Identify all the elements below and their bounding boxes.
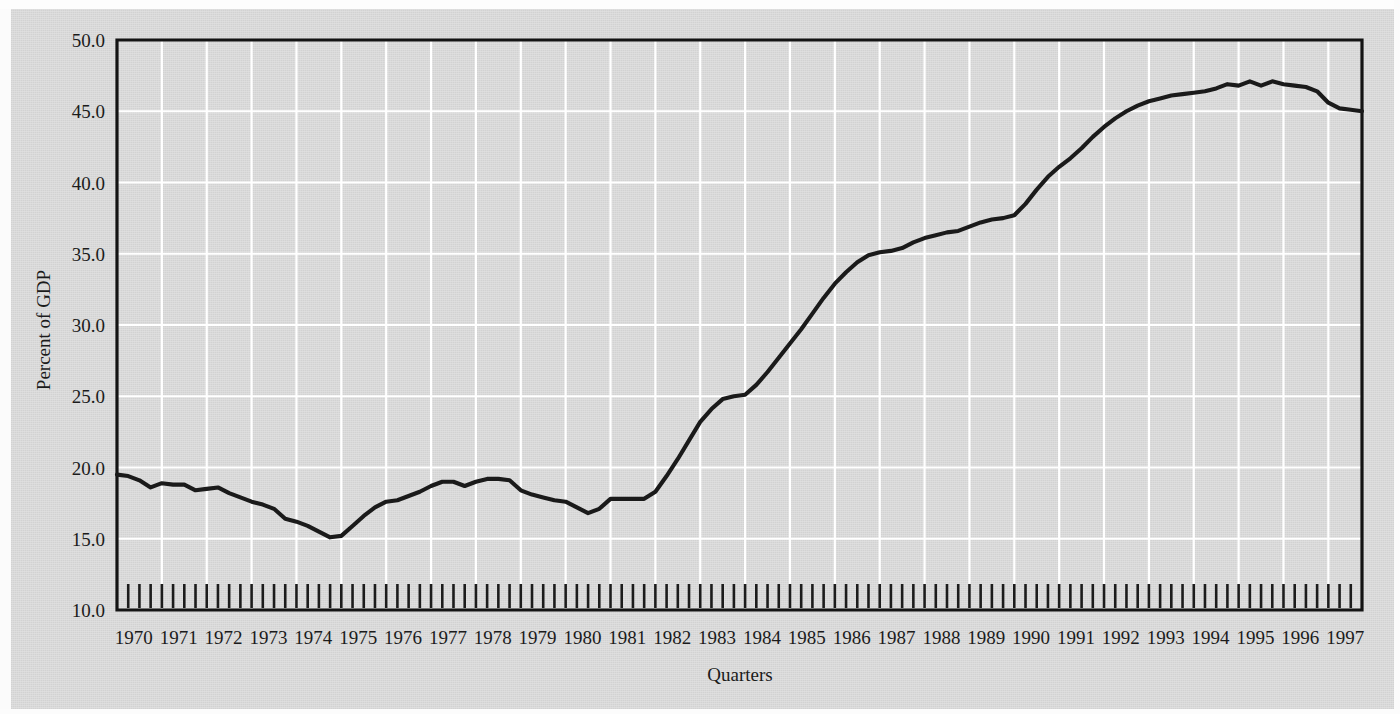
x-axis-tick-label: 1993 — [1147, 627, 1185, 648]
x-axis-tick-label: 1973 — [249, 627, 287, 648]
x-axis-tick-label: 1988 — [922, 627, 960, 648]
x-axis-tick-label: 1977 — [429, 627, 467, 648]
x-axis-tick-label: 1972 — [205, 627, 243, 648]
y-axis-tick-label: 35.0 — [72, 244, 105, 265]
chart-figure: 50.045.040.035.030.025.020.015.010.0 197… — [0, 0, 1400, 714]
x-axis-tick-label: 1989 — [967, 627, 1005, 648]
x-axis-tick-label: 1983 — [698, 627, 736, 648]
x-axis-tick-label: 1982 — [653, 627, 691, 648]
x-axis-tick-label: 1984 — [743, 627, 782, 648]
y-axis-tick-label: 45.0 — [72, 101, 105, 122]
x-axis-tick-label: 1990 — [1012, 627, 1050, 648]
y-axis-tick-label: 20.0 — [72, 458, 105, 479]
x-axis-tick-label: 1997 — [1326, 627, 1364, 648]
y-axis-tick-label: 25.0 — [72, 386, 105, 407]
x-axis-tick-label: 1996 — [1281, 627, 1319, 648]
x-axis-tick-label: 1970 — [115, 627, 153, 648]
x-axis-tick-labels: 1970197119721973197419751976197719781979… — [115, 627, 1364, 648]
x-axis-tick-label: 1971 — [160, 627, 198, 648]
y-axis-tick-label: 10.0 — [72, 600, 105, 621]
y-axis-tick-labels: 50.045.040.035.030.025.020.015.010.0 — [72, 30, 105, 621]
x-axis-tick-label: 1974 — [294, 627, 333, 648]
y-axis-tick-label: 15.0 — [72, 529, 105, 550]
y-axis-title: Percent of GDP — [33, 270, 54, 390]
x-axis-tick-label: 1980 — [563, 627, 601, 648]
x-axis-tick-label: 1991 — [1057, 627, 1095, 648]
x-axis-tick-label: 1985 — [788, 627, 826, 648]
x-axis-tick-label: 1987 — [878, 627, 916, 648]
horizontal-gridlines — [117, 111, 1362, 539]
x-axis-tick-label: 1986 — [833, 627, 871, 648]
x-axis-tick-label: 1976 — [384, 627, 422, 648]
x-axis-tick-label: 1979 — [519, 627, 557, 648]
x-axis-tick-label: 1981 — [608, 627, 646, 648]
quarterly-tick-marks — [128, 584, 1351, 608]
x-axis-tick-label: 1994 — [1192, 627, 1231, 648]
data-series-line — [117, 81, 1362, 537]
y-axis-tick-label: 50.0 — [72, 30, 105, 51]
y-axis-tick-label: 40.0 — [72, 173, 105, 194]
x-axis-tick-label: 1975 — [339, 627, 377, 648]
x-axis-tick-label: 1995 — [1236, 627, 1274, 648]
y-axis-tick-label: 30.0 — [72, 315, 105, 336]
x-axis-tick-label: 1992 — [1102, 627, 1140, 648]
line-chart-svg: 50.045.040.035.030.025.020.015.010.0 197… — [0, 0, 1400, 714]
x-axis-title: Quarters — [707, 664, 772, 685]
x-axis-tick-label: 1978 — [474, 627, 512, 648]
